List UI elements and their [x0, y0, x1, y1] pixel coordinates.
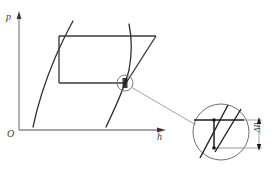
delta-p-label: ΔP [253, 123, 262, 133]
saturated-liquid-curve [33, 21, 73, 127]
detail-circle [193, 104, 249, 160]
callout-source-marker [123, 78, 128, 88]
y-axis-label: p [6, 11, 11, 22]
cycle-group [59, 36, 156, 83]
saturation-curves-group [33, 21, 131, 127]
detail-view-group [193, 104, 262, 160]
detail-diagonal-right [215, 109, 241, 152]
ph-diagram-svg [0, 0, 278, 173]
axis-group [17, 11, 166, 133]
figure-canvas: p h O ΔP [0, 0, 278, 173]
y-axis-arrow [17, 11, 22, 19]
callout-source-group [117, 75, 196, 125]
detail-upper-node [212, 118, 216, 122]
detail-lower-node [212, 146, 216, 150]
dimension-arrow-bottom [257, 144, 261, 151]
origin-label: O [7, 128, 14, 139]
callout-leader-line [131, 87, 196, 125]
x-axis-label: h [157, 131, 162, 142]
